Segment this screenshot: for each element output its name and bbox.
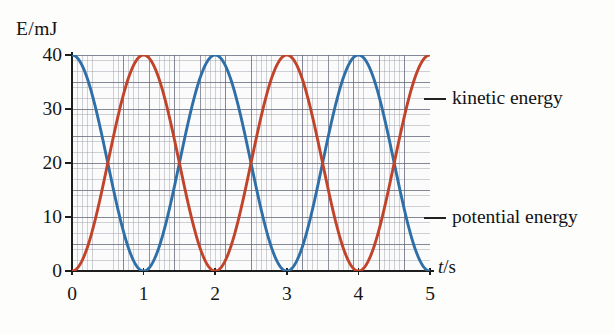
y-tick-label-30: 30 xyxy=(16,99,62,119)
x-tick-label-2: 2 xyxy=(200,284,230,304)
y-tick-40 xyxy=(65,54,72,56)
energy-vs-time-chart: E/mJ 010203040 012345 t/s kinetic energy… xyxy=(0,0,615,334)
y-tick-label-0: 0 xyxy=(16,261,62,281)
y-tick-10 xyxy=(65,216,72,218)
potential-energy-label: potential energy xyxy=(452,207,578,227)
y-tick-label-20: 20 xyxy=(16,153,62,173)
x-tick-label-1: 1 xyxy=(129,284,159,304)
x-axis-title: t/s xyxy=(438,256,456,278)
x-tick-label-4: 4 xyxy=(343,284,373,304)
x-axis-title-unit: /s xyxy=(443,256,456,277)
x-tick-label-3: 3 xyxy=(272,284,302,304)
kinetic-energy-callout-line xyxy=(424,98,446,100)
kinetic-energy-label: kinetic energy xyxy=(452,88,563,108)
y-tick-30 xyxy=(65,108,72,110)
curve-layer xyxy=(72,55,430,271)
y-tick-label-10: 10 xyxy=(16,207,62,227)
y-tick-label-40: 40 xyxy=(16,45,62,65)
x-tick-label-0: 0 xyxy=(57,284,87,304)
potential-energy-callout-line xyxy=(424,217,446,219)
y-tick-20 xyxy=(65,162,72,164)
y-axis-title: E/mJ xyxy=(16,18,58,40)
x-tick-label-5: 5 xyxy=(415,284,445,304)
